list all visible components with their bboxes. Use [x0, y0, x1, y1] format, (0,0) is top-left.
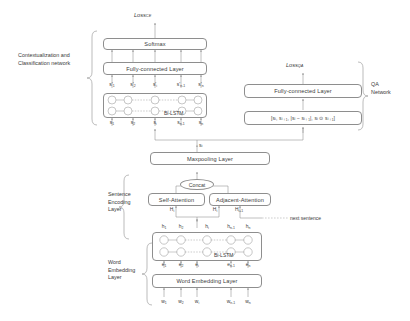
embedding-vector-label: en [246, 262, 251, 268]
word-bilstm-cells [0, 0, 410, 321]
sentence-input-label: s2 [131, 120, 135, 126]
word-output-label: h2 [179, 224, 184, 230]
embedding-vector-label: ei [195, 262, 199, 268]
word-token-label: w2 [178, 299, 183, 305]
word-token-label: w1 [161, 299, 166, 305]
sentence-input-label: s1 [110, 120, 114, 126]
sentence-output-label: s'2 [130, 82, 135, 88]
sentence-output-label: s'i [153, 82, 157, 88]
sentence-output-label: s'1 [109, 82, 114, 88]
word-token-label: wn [245, 299, 250, 305]
word-bilstm-tag: Bi-LSTM [214, 252, 233, 258]
sentence-input-label: sn [199, 120, 203, 126]
word-output-label: hn-1 [227, 224, 235, 230]
architecture-diagram: LossCE LossQA Softmax Fully-connected La… [0, 0, 410, 321]
sentence-output-label: s'n-1 [177, 82, 185, 88]
embedding-vector-label: e1 [162, 262, 167, 268]
word-token-label: wn-1 [227, 299, 235, 305]
word-output-label: h1 [162, 224, 167, 230]
word-embedding-layer-box[interactable]: Word Embedding Layer [152, 274, 262, 288]
sentence-input-label: si [153, 120, 156, 126]
word-output-label: hi [205, 224, 209, 230]
sentence-output-label: s'n [198, 82, 203, 88]
qa-network-label: QA Network [371, 81, 409, 96]
embedding-vector-label: en-1 [227, 262, 235, 268]
embedding-vector-label: e2 [179, 262, 184, 268]
word-output-label: hn [246, 224, 251, 230]
word-embedding-layer-label: Word Embedding Layer [108, 259, 134, 282]
sentence-input-label: sn-1 [177, 120, 184, 126]
sentence-encoding-layer-label: Sentence Encoding Layer [108, 191, 130, 214]
word-token-label: wi [195, 299, 199, 305]
contextualization-classification-label: Contextualization and Classification net… [18, 52, 96, 67]
